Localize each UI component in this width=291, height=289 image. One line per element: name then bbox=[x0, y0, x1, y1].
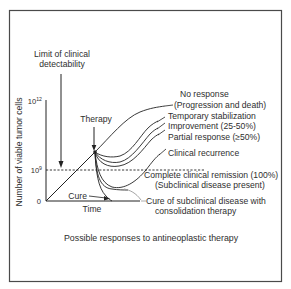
response-label-no-response-2: (Progression and death) bbox=[174, 100, 266, 110]
cure-label: Cure bbox=[68, 191, 87, 201]
leader-temporary-stabilization bbox=[157, 117, 165, 122]
therapy-label: Therapy bbox=[80, 114, 112, 124]
response-label-partial-response: Partial response (≥50%) bbox=[168, 132, 260, 142]
cure-arrow-shaft bbox=[89, 196, 106, 198]
leader-clinical-recurrence bbox=[159, 149, 166, 155]
response-label-cure-consolidation-1: Cure of subclinical disease with bbox=[146, 196, 266, 206]
y-tick-zero: 0 bbox=[37, 197, 41, 206]
leader-partial-response bbox=[158, 130, 165, 135]
response-label-temporary-stabilization: Temporary stabilization bbox=[168, 111, 256, 121]
response-label-complete-remission-1: Complete clinical remission (100%) bbox=[144, 170, 278, 180]
therapy-arrow-head-icon bbox=[92, 145, 97, 151]
curve-partial-response bbox=[95, 134, 159, 166]
figure-caption: Possible responses to antineoplastic the… bbox=[64, 233, 239, 243]
response-label-complete-remission-2: (Subclinical disease present) bbox=[155, 180, 265, 190]
leader-improvement bbox=[157, 123, 165, 129]
curve-temporary-stabilization bbox=[95, 121, 158, 157]
curve-no-response bbox=[95, 106, 165, 152]
response-label-cure-consolidation-2: consolidation therapy bbox=[155, 206, 237, 216]
response-label-improvement: Improvement (25-50%) bbox=[168, 121, 256, 131]
detectability-arrow-head-icon bbox=[59, 161, 64, 168]
detectability-label-line2: detectability bbox=[39, 59, 85, 69]
leader-no-response bbox=[165, 105, 173, 106]
tumor-response-diagram: Number of viable tumor cells 1012 109 0 … bbox=[0, 0, 291, 289]
response-label-no-response-1: No response bbox=[180, 89, 229, 99]
response-label-clinical-recurrence: Clinical recurrence bbox=[168, 148, 239, 158]
y-tick-10-12: 1012 bbox=[28, 96, 42, 107]
curve-cure-consolidation bbox=[124, 189, 141, 200]
x-axis-label: Time bbox=[83, 204, 102, 214]
detectability-label-line1: Limit of clinical bbox=[34, 49, 90, 59]
curve-improvement bbox=[95, 128, 158, 163]
y-tick-10-9: 109 bbox=[31, 165, 42, 176]
y-axis-label: Number of viable tumor cells bbox=[14, 98, 24, 207]
